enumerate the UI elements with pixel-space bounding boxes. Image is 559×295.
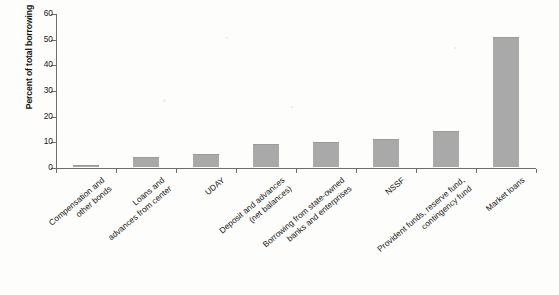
- y-tick-label: 0: [31, 162, 53, 172]
- bar[interactable]: [493, 37, 519, 167]
- bar[interactable]: [73, 165, 99, 167]
- y-tick-label: 20: [31, 111, 53, 121]
- bar[interactable]: [133, 157, 159, 167]
- x-tick-mark: [476, 169, 477, 173]
- cropped-title-text: [150, 0, 410, 6]
- x-tick-mark: [56, 169, 57, 173]
- bar[interactable]: [313, 142, 339, 167]
- y-axis-line: [56, 14, 57, 169]
- bar[interactable]: [253, 144, 279, 167]
- y-tick-label: 40: [31, 59, 53, 69]
- y-tick-label: 60: [31, 8, 53, 18]
- y-tick-label: 50: [31, 34, 53, 44]
- x-tick-mark: [116, 169, 117, 173]
- x-tick-mark: [176, 169, 177, 173]
- x-tick-mark: [296, 169, 297, 173]
- chart-figure: Percent of total borrowing 0102030405060…: [0, 0, 559, 295]
- x-tick-mark: [416, 169, 417, 173]
- bar[interactable]: [433, 131, 459, 167]
- plot-area: 0102030405060: [56, 14, 536, 168]
- y-tick-label: 10: [31, 136, 53, 146]
- x-tick-mark: [356, 169, 357, 173]
- x-tick-mark: [536, 169, 537, 173]
- y-tick-label: 30: [31, 85, 53, 95]
- bar[interactable]: [193, 154, 219, 167]
- x-tick-mark: [236, 169, 237, 173]
- bar[interactable]: [373, 139, 399, 167]
